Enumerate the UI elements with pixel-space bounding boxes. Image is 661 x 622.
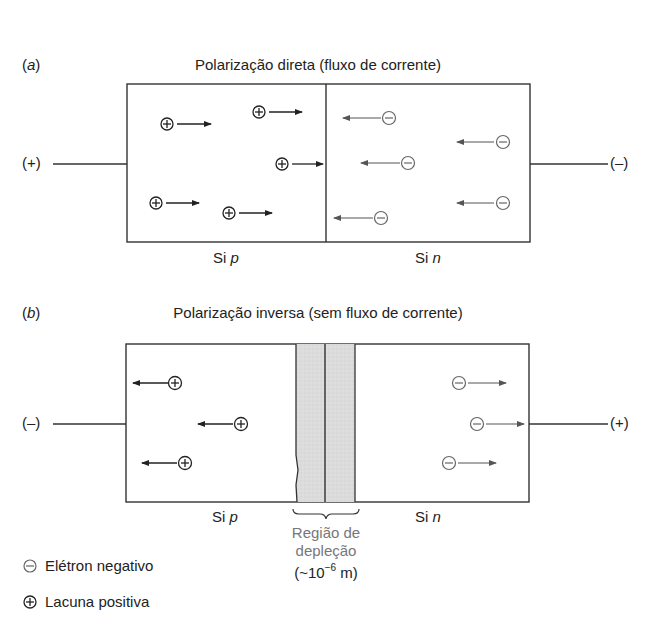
panel-b-label: (b) — [22, 304, 40, 321]
hole-icon — [24, 596, 36, 608]
panel-a-semiconductor-block — [127, 84, 530, 242]
depletion-label-line1: Região de — [292, 524, 360, 541]
panel-b-n-region-label: Si n — [415, 508, 441, 525]
panel-a-n-region-label: Si n — [415, 249, 441, 266]
pn-junction-diagram: (a) Polarização direta (fluxo de corrent… — [0, 0, 661, 622]
electron-icon — [24, 560, 36, 572]
panel-a: (a) Polarização direta (fluxo de corrent… — [22, 56, 628, 266]
panel-a-title: Polarização direta (fluxo de corrente) — [195, 56, 441, 73]
legend: Elétron negativo Lacuna positiva — [24, 557, 153, 610]
panel-b-p-region-label: Si p — [212, 508, 238, 525]
legend-item-hole: Lacuna positiva — [24, 593, 150, 610]
legend-label: Lacuna positiva — [45, 593, 150, 610]
panel-a-p-region-label: Si p — [213, 249, 239, 266]
panel-a-right-terminal: (–) — [610, 154, 628, 171]
panel-a-label: (a) — [22, 56, 40, 73]
panel-b-left-terminal: (–) — [22, 414, 40, 431]
legend-item-electron: Elétron negativo — [24, 557, 153, 574]
legend-label: Elétron negativo — [45, 557, 153, 574]
depletion-label-line2: depleção — [296, 542, 357, 559]
panel-a-left-terminal: (+) — [22, 154, 41, 171]
depletion-brace — [293, 509, 359, 519]
panel-b-title: Polarização inversa (sem fluxo de corren… — [173, 304, 462, 321]
panel-b-right-terminal: (+) — [610, 414, 629, 431]
panel-b: (b) Polarização inversa (sem fluxo de co… — [22, 304, 629, 581]
depletion-width-label: (~10−6 m) — [294, 562, 358, 581]
